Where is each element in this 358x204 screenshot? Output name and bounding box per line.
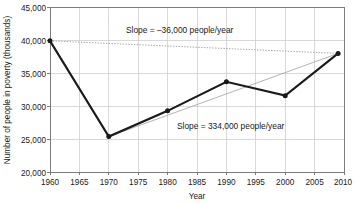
x-tick-label: 2010 bbox=[334, 178, 353, 187]
chart-canvas: Number of people in poverty (thousands) … bbox=[0, 0, 358, 204]
slope-annotation-lower: Slope = 334,000 people/year bbox=[177, 121, 285, 131]
data-point-1970 bbox=[106, 134, 111, 139]
poverty-line-chart: Number of people in poverty (thousands) … bbox=[0, 0, 358, 204]
y-tick-label: 25,000 bbox=[21, 136, 46, 145]
x-tick-label: 1995 bbox=[247, 178, 266, 187]
y-axis-title: Number of people in poverty (thousands) bbox=[3, 16, 12, 165]
y-tick-label: 40,000 bbox=[21, 37, 46, 46]
x-tick-label: 1970 bbox=[100, 178, 119, 187]
x-tick-label: 1985 bbox=[188, 178, 207, 187]
x-tick-label: 2005 bbox=[305, 178, 324, 187]
x-tick-label: 1990 bbox=[217, 178, 236, 187]
data-point-2000 bbox=[283, 93, 288, 98]
data-point-1980 bbox=[165, 108, 170, 113]
y-tick-label: 35,000 bbox=[21, 70, 46, 79]
x-tick-label: 2000 bbox=[276, 178, 295, 187]
y-tick-label: 30,000 bbox=[21, 103, 46, 112]
data-point-1990 bbox=[224, 79, 229, 84]
data-point-2009 bbox=[336, 51, 341, 56]
x-tick-label: 1975 bbox=[129, 178, 148, 187]
trend-line-dotted bbox=[50, 41, 338, 54]
data-point-1960 bbox=[48, 38, 53, 43]
x-axis-tick-labels: 1960 1965 1970 1975 1980 1985 1990 1995 … bbox=[41, 178, 353, 187]
y-axis-tick-labels: 20,000 25,000 30,000 35,000 40,000 45,00… bbox=[21, 4, 46, 178]
x-tick-label: 1965 bbox=[70, 178, 89, 187]
y-tick-label: 45,000 bbox=[21, 4, 46, 13]
x-axis-title: Year bbox=[189, 192, 206, 201]
y-tick-label: 20,000 bbox=[21, 169, 46, 178]
x-tick-label: 1960 bbox=[41, 178, 60, 187]
slope-annotation-upper: Slope = –36,000 people/year bbox=[126, 25, 234, 35]
x-tick-label: 1980 bbox=[158, 178, 177, 187]
